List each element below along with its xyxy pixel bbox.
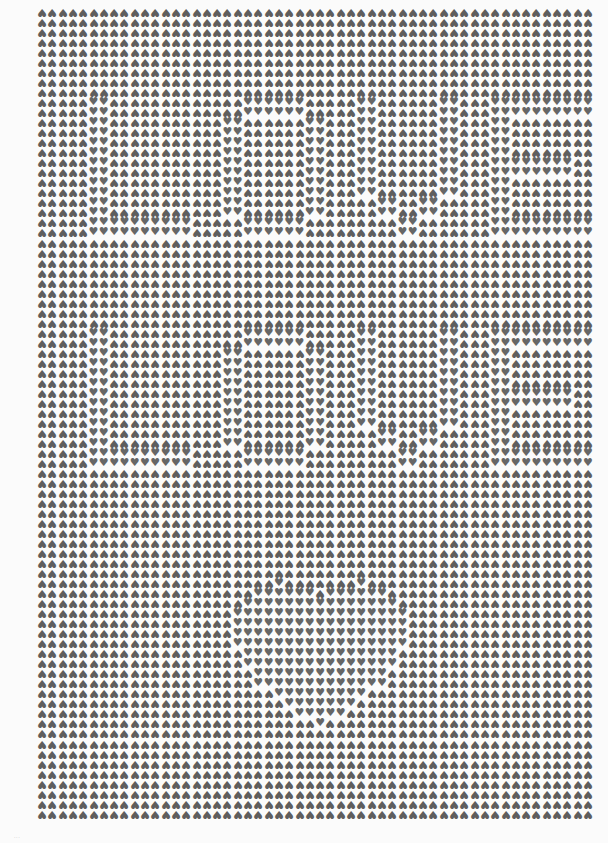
heart-icon: ♥ (573, 809, 583, 819)
heart-icon: ♥ (449, 258, 459, 268)
heart-icon: ♥ (356, 759, 366, 769)
heart-icon: ♥ (439, 278, 449, 288)
heart-icon: ♥ (562, 227, 572, 237)
heart-icon: ♥ (470, 809, 480, 819)
heart-icon: ♥ (356, 769, 366, 779)
heart-icon: ♥ (501, 809, 511, 819)
heart-icon: ♥ (284, 728, 294, 738)
heart-icon: ♥ (377, 809, 387, 819)
heart-icon: ♥ (161, 749, 171, 759)
heart-icon: ♥ (264, 238, 274, 248)
heart-icon: ♥ (398, 728, 408, 738)
heart-icon: ♥ (161, 739, 171, 749)
heart-icon: ♥ (68, 759, 78, 769)
heart-icon: ♥ (264, 248, 274, 258)
heart-icon: ♥ (398, 809, 408, 819)
heart-icon: ♥ (418, 728, 428, 738)
heart-icon: ♥ (284, 759, 294, 769)
heart-icon: ♥ (284, 227, 294, 237)
heart-icon: ♥ (531, 779, 541, 789)
heart-icon: ♥ (253, 739, 263, 749)
heart-icon: ♥ (490, 749, 500, 759)
heart-icon: ♥ (150, 759, 160, 769)
heart-icon: ♥ (356, 728, 366, 738)
heart-icon: ♥ (99, 238, 109, 248)
heart-icon: ♥ (336, 749, 346, 759)
heart-icon: ♥ (47, 759, 57, 769)
heart-icon: ♥ (119, 238, 129, 248)
heart-icon: ♥ (325, 238, 335, 248)
heart-icon: ♥ (459, 749, 469, 759)
heart-icon: ♥ (583, 258, 593, 268)
heart-icon: ♥ (480, 739, 490, 749)
heart-icon: ♥ (202, 759, 212, 769)
heart-icon: ♥ (58, 739, 68, 749)
heart-icon: ♥ (387, 258, 397, 268)
heart-icon: ♥ (253, 759, 263, 769)
heart-icon: ♥ (140, 779, 150, 789)
heart-icon: ♥ (428, 258, 438, 268)
heart-icon: ♥ (202, 238, 212, 248)
heart-icon: ♥ (233, 238, 243, 248)
heart-icon: ♥ (562, 728, 572, 738)
heart-icon: ♥ (161, 268, 171, 278)
heart-icon: ♥ (428, 779, 438, 789)
heart-icon: ♥ (150, 227, 160, 237)
heart-icon: ♥ (428, 248, 438, 258)
heart-icon: ♥ (233, 769, 243, 779)
heart-icon: ♥ (439, 739, 449, 749)
heart-icon: ♥ (428, 749, 438, 759)
heart-icon: ♥ (109, 278, 119, 288)
heart-icon: ♥ (181, 769, 191, 779)
heart-icon: ♥ (222, 227, 232, 237)
heart-icon: ♥ (119, 268, 129, 278)
heart-icon: ♥ (418, 278, 428, 288)
heart-icon: ♥ (89, 739, 99, 749)
heart-icon: ♥ (428, 227, 438, 237)
heart-icon: ♥ (119, 749, 129, 759)
heart-icon: ♥ (521, 227, 531, 237)
heart-icon: ♥ (573, 268, 583, 278)
heart-icon: ♥ (109, 248, 119, 258)
heart-icon: ♥ (511, 248, 521, 258)
heart-icon: ♥ (336, 278, 346, 288)
heart-icon: ♥ (336, 728, 346, 738)
heart-icon: ♥ (367, 258, 377, 268)
heart-icon: ♥ (233, 227, 243, 237)
heart-icon: ♥ (346, 739, 356, 749)
heart-icon: ♥ (346, 238, 356, 248)
heart-icon: ♥ (542, 779, 552, 789)
heart-icon: ♥ (119, 248, 129, 258)
heart-icon: ♥ (109, 238, 119, 248)
heart-icon: ♥ (562, 769, 572, 779)
heart-icon: ♥ (387, 728, 397, 738)
heart-icon: ♥ (119, 759, 129, 769)
heart-icon: ♥ (119, 258, 129, 268)
heart-icon: ♥ (284, 238, 294, 248)
heart-icon: ♥ (583, 278, 593, 288)
heart-icon: ♥ (490, 779, 500, 789)
heart-icon: ♥ (37, 227, 47, 237)
heart-icon: ♥ (408, 278, 418, 288)
heart-icon: ♥ (336, 268, 346, 278)
heart-icon: ♥ (490, 809, 500, 819)
heart-icon: ♥ (315, 728, 325, 738)
heart-icon: ♥ (233, 728, 243, 738)
heart-icon: ♥ (181, 739, 191, 749)
heart-icon: ♥ (253, 278, 263, 288)
heart-icon: ♥ (171, 248, 181, 258)
heart-icon: ♥ (583, 759, 593, 769)
heart-icon: ♥ (140, 248, 150, 258)
heart-icon: ♥ (150, 749, 160, 759)
heart-icon: ♥ (171, 227, 181, 237)
heart-icon: ♥ (367, 759, 377, 769)
heart-icon: ♥ (521, 809, 531, 819)
heart-icon: ♥ (140, 238, 150, 248)
heart-icon: ♥ (573, 227, 583, 237)
heart-icon: ♥ (109, 769, 119, 779)
heart-icon: ♥ (274, 779, 284, 789)
heart-icon: ♥ (521, 739, 531, 749)
heart-icon: ♥ (573, 248, 583, 258)
heart-icon: ♥ (387, 268, 397, 278)
heart-icon: ♥ (68, 749, 78, 759)
